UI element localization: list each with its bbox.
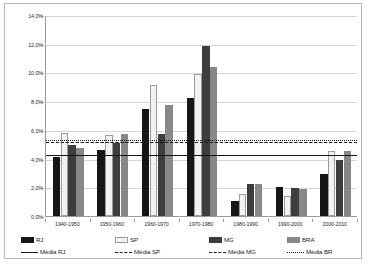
- bar-rj[interactable]: [142, 109, 149, 216]
- bar-bra[interactable]: [121, 134, 128, 216]
- y-axis-tick-mark: [41, 188, 44, 189]
- x-axis-tick-label: 2000-2010: [322, 221, 346, 227]
- bar-group: [135, 16, 180, 216]
- bar-rj[interactable]: [97, 150, 104, 216]
- bar-sp[interactable]: [105, 135, 112, 216]
- bar-mg[interactable]: [113, 143, 120, 216]
- legend-label: Média SP: [134, 248, 160, 255]
- x-axis-tick-label: 1960-1970: [144, 221, 168, 227]
- bar-group: [313, 16, 358, 216]
- y-axis-tick-label: 0,0%: [9, 214, 43, 220]
- legend-item-média-sp[interactable]: Média SP: [115, 246, 160, 257]
- bar-bra[interactable]: [76, 148, 83, 216]
- bar-bra[interactable]: [165, 105, 172, 216]
- y-axis-tick-label: 8,0%: [9, 99, 43, 105]
- legend-line-solid-icon: [21, 249, 38, 255]
- legend-item-sp[interactable]: SP: [115, 234, 138, 245]
- bar-sp[interactable]: [328, 151, 335, 216]
- bar-mg[interactable]: [336, 160, 343, 216]
- bar-bra[interactable]: [210, 67, 217, 216]
- legend-swatch-bra-icon: [287, 237, 300, 243]
- bar-sp[interactable]: [284, 196, 291, 216]
- bar-bra[interactable]: [299, 189, 306, 216]
- y-axis: 0,0%2,0%4,0%6,0%8,0%10,0%12,0%14,0%: [5, 16, 43, 217]
- bar-group: [224, 16, 269, 216]
- x-axis-tick-label: 1940-1950: [55, 221, 79, 227]
- legend-swatch-mg-icon: [209, 237, 222, 243]
- y-axis-tick-mark: [41, 102, 44, 103]
- legend-item-rj[interactable]: RJ: [21, 234, 43, 245]
- bar-bra[interactable]: [344, 151, 351, 216]
- y-axis-tick-label: 12,0%: [9, 42, 43, 48]
- bar-sp[interactable]: [150, 85, 157, 216]
- bar-rj[interactable]: [320, 174, 327, 216]
- y-axis-tick-mark: [41, 160, 44, 161]
- legend-swatch-rj-icon: [21, 237, 34, 243]
- y-axis-tick-mark: [41, 45, 44, 46]
- x-axis-tick-mark: [223, 219, 224, 222]
- legend-label: Média BR: [306, 248, 332, 255]
- bar-mg[interactable]: [202, 46, 209, 216]
- legend-line-dashdot-icon: [209, 249, 226, 255]
- x-axis-tick-label: 1980-1990: [233, 221, 257, 227]
- bar-group: [46, 16, 91, 216]
- bar-group: [91, 16, 136, 216]
- bar-sp[interactable]: [194, 74, 201, 216]
- chart-frame: 0,0%2,0%4,0%6,0%8,0%10,0%12,0%14,0% 1940…: [4, 3, 362, 259]
- bar-sp[interactable]: [61, 133, 68, 216]
- bar-rj[interactable]: [53, 157, 60, 216]
- legend-label: SP: [130, 236, 138, 243]
- y-axis-tick-label: 6,0%: [9, 128, 43, 134]
- y-axis-tick-mark: [41, 16, 44, 17]
- legend-means-row: Média RJMédia SPMédia MGMédia BR: [21, 246, 351, 257]
- x-axis-tick-mark: [312, 219, 313, 222]
- bar-rj[interactable]: [187, 98, 194, 216]
- legend-item-média-br[interactable]: Média BR: [287, 246, 332, 257]
- y-axis-tick-label: 2,0%: [9, 185, 43, 191]
- legend-label: MG: [224, 236, 234, 243]
- bar-rj[interactable]: [231, 201, 238, 216]
- x-axis-tick-label: 1970-1980: [189, 221, 213, 227]
- legend-item-média-mg[interactable]: Média MG: [209, 246, 256, 257]
- bar-group: [269, 16, 314, 216]
- x-axis-tick-label: 1950-1960: [100, 221, 124, 227]
- y-axis-tick-label: 14,0%: [9, 13, 43, 19]
- legend-label: BRA: [302, 236, 314, 243]
- bar-bra[interactable]: [255, 184, 262, 216]
- y-axis-tick-mark: [41, 217, 44, 218]
- plot-area: [45, 16, 357, 217]
- y-axis-tick-mark: [41, 131, 44, 132]
- chart-legend: RJSPMGBRA Média RJMédia SPMédia MGMédia …: [21, 234, 351, 258]
- legend-line-dotted-icon: [287, 249, 304, 255]
- x-axis-tick-mark: [45, 219, 46, 222]
- legend-series-row: RJSPMGBRA: [21, 234, 351, 245]
- legend-line-dashed-icon: [115, 249, 132, 255]
- y-axis-tick-label: 10,0%: [9, 70, 43, 76]
- bar-sp[interactable]: [239, 194, 246, 216]
- bar-rj[interactable]: [276, 187, 283, 216]
- y-axis-tick-label: 4,0%: [9, 157, 43, 163]
- legend-item-média-rj[interactable]: Média RJ: [21, 246, 65, 257]
- x-axis-tick-mark: [179, 219, 180, 222]
- legend-label: Média RJ: [40, 248, 65, 255]
- bar-mg[interactable]: [291, 188, 298, 216]
- x-axis-tick-mark: [90, 219, 91, 222]
- legend-swatch-sp-icon: [115, 237, 128, 243]
- x-axis-tick-mark: [134, 219, 135, 222]
- x-axis-tick-label: 1990-2000: [278, 221, 302, 227]
- bar-mg[interactable]: [247, 184, 254, 216]
- legend-item-bra[interactable]: BRA: [287, 234, 314, 245]
- legend-label: Média MG: [228, 248, 256, 255]
- bar-mg[interactable]: [68, 145, 75, 216]
- y-axis-tick-mark: [41, 73, 44, 74]
- legend-label: RJ: [36, 236, 43, 243]
- bar-mg[interactable]: [158, 134, 165, 216]
- x-axis: 1940-19501950-19601960-19701970-19801980…: [45, 219, 357, 233]
- x-axis-tick-mark: [268, 219, 269, 222]
- bar-group: [180, 16, 225, 216]
- x-axis-tick-mark: [357, 219, 358, 222]
- legend-item-mg[interactable]: MG: [209, 234, 234, 245]
